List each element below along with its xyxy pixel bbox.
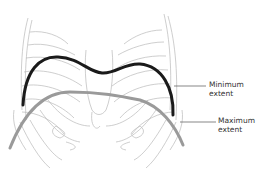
- maximum-label-line2: extent: [218, 126, 255, 135]
- minimum-extent-label: Minimum extent: [209, 81, 244, 98]
- minimum-label-line2: extent: [209, 90, 244, 99]
- maximum-extent-label: Maximum extent: [218, 117, 255, 134]
- maximum-extent-curve: [10, 92, 183, 148]
- sternum: [85, 50, 113, 128]
